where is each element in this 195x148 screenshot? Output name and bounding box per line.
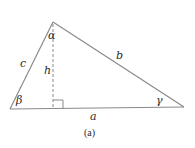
angle-gamma-label: γ — [156, 94, 163, 107]
side-c-label: c — [20, 57, 26, 70]
side-b-label: b — [116, 49, 123, 62]
angle-beta-label: β — [15, 94, 22, 107]
right-angle-marker — [53, 100, 63, 108]
angle-alpha-label: α — [48, 29, 56, 42]
figure-caption: (a) — [84, 127, 95, 139]
side-a-label: a — [90, 110, 97, 123]
triangle-diagram: α c h b β γ a (a) — [0, 0, 195, 148]
side-b-line — [53, 22, 184, 107]
side-a-line — [10, 107, 184, 109]
height-h-label: h — [44, 64, 51, 77]
